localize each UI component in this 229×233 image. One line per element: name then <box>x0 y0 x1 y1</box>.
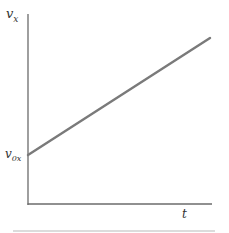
velocity-time-graph <box>0 0 229 233</box>
y-axis-label: vx <box>6 6 18 24</box>
intercept-label: v0x <box>5 147 21 163</box>
x-axis-label: t <box>182 207 187 221</box>
data-line <box>28 38 210 155</box>
